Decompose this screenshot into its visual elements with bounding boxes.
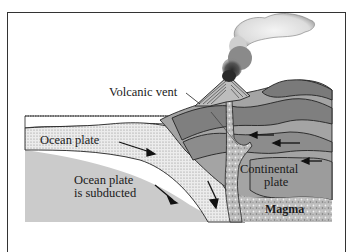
- label-volcanic-vent: Volcanic vent: [109, 86, 177, 99]
- label-magma: Magma: [265, 203, 304, 216]
- caption-cut-off: [60, 229, 320, 240]
- label-ocean-plate-subducted-2: is subducted: [74, 187, 136, 200]
- label-ocean-plate: Ocean plate: [40, 134, 99, 147]
- label-continental-plate-2: plate: [264, 176, 288, 189]
- volcanic-vent-leader: [186, 93, 200, 104]
- smoke-plume: [222, 14, 315, 82]
